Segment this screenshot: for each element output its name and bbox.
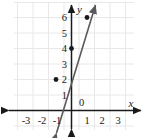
origin-label: 0 bbox=[79, 97, 84, 108]
coordinate-plane-graph: y x 0 -3 -2 -1 1 2 3 1 2 3 4 5 6 bbox=[0, 0, 148, 138]
y-tick-label: 2 bbox=[62, 74, 67, 85]
x-tick-label: -3 bbox=[22, 115, 31, 126]
y-tick-label: 5 bbox=[62, 28, 67, 39]
x-tick-label: 2 bbox=[99, 115, 104, 126]
y-tick-label: 1 bbox=[62, 90, 67, 101]
y-tick-label: 4 bbox=[62, 43, 68, 54]
x-axis-label: x bbox=[128, 97, 134, 109]
y-axis-label: y bbox=[76, 3, 82, 15]
graph-canvas: y x 0 -3 -2 -1 1 2 3 1 2 3 4 5 6 bbox=[0, 0, 148, 138]
x-tick-label: -2 bbox=[38, 115, 47, 126]
x-tick-label: 3 bbox=[115, 115, 120, 126]
y-tick-label: 3 bbox=[62, 59, 67, 70]
x-tick-label: -1 bbox=[53, 115, 62, 126]
data-point bbox=[85, 15, 90, 20]
data-point bbox=[69, 46, 74, 51]
x-tick-label: 1 bbox=[84, 115, 89, 126]
y-tick-label: 6 bbox=[62, 12, 67, 23]
data-point bbox=[54, 77, 59, 82]
